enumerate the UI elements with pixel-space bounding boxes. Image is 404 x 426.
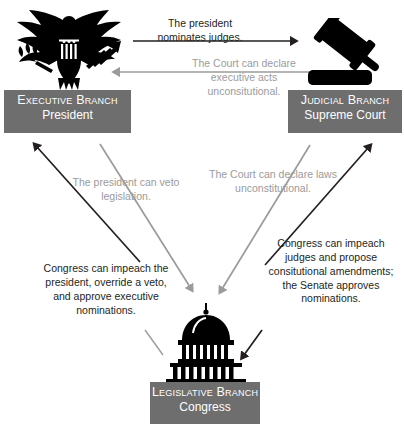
- arrow-impeach-president: [37, 147, 140, 262]
- annotation-laws-unconstitutional: The Court can declare laws unconstitutio…: [205, 168, 341, 196]
- branch-title-judicial: Judicial Branch: [288, 93, 402, 108]
- branch-subtitle-judicial: Supreme Court: [288, 108, 402, 122]
- branch-title-legislative: Legislative Branch: [150, 385, 260, 400]
- branch-box-executive: Executive Branch President: [4, 90, 131, 133]
- annotation-impeach-president: Congress can impeach the president, over…: [32, 262, 180, 317]
- eagle-seal-icon: [8, 8, 130, 92]
- annotation-executive-acts-unconstitutional: The Court can declare executive acts unc…: [183, 57, 305, 99]
- branch-subtitle-executive: President: [4, 108, 131, 122]
- gavel-icon: [304, 18, 390, 88]
- annotation-impeach-judges: Congress can impeach judges and propose …: [262, 237, 400, 306]
- branch-title-executive: Executive Branch: [4, 93, 131, 108]
- branch-box-legislative: Legislative Branch Congress: [150, 382, 260, 424]
- branch-box-judicial: Judicial Branch Supreme Court: [288, 90, 402, 133]
- annotation-nominates-judges: The president nominates judges.: [140, 17, 260, 45]
- checks-and-balances-diagram: Executive Branch President Judicial Bran…: [0, 0, 404, 426]
- annotation-veto-legislation: The president can veto legislation.: [62, 176, 190, 204]
- branch-subtitle-legislative: Congress: [150, 400, 260, 414]
